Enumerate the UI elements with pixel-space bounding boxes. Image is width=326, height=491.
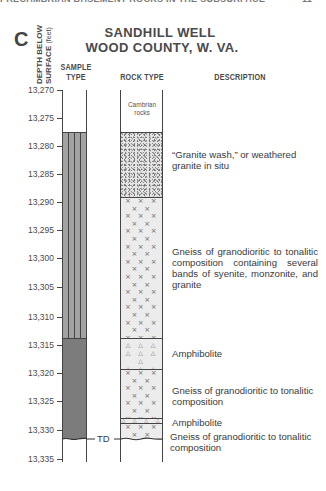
- tick-label: 13,285: [4, 169, 54, 179]
- cambrian-label-line1: Cambrian: [121, 101, 163, 109]
- sample-column-left-edge: [62, 90, 63, 462]
- description-gneiss-with-bands: Gneiss of granodioritic to tonalitic com…: [172, 246, 318, 290]
- description-granite-wash: “Granite wash,” or weathered granite in …: [172, 149, 318, 171]
- panel-letter: C: [14, 28, 28, 51]
- gneiss-pattern-row: × × × × ×: [121, 213, 163, 228]
- figure-title-line2: WOOD COUNTY, W. VA.: [62, 40, 262, 55]
- tick-label: 13,325: [4, 396, 54, 406]
- rock-amphibolite-interval-1: △ △ △ △ △ △ △ △ △ △: [121, 339, 163, 369]
- tick-label: 13,295: [4, 225, 54, 235]
- tick-label: 13,320: [4, 368, 54, 378]
- y-axis-title: DEPTH BELOW SURFACE (feet): [35, 25, 53, 84]
- running-title: PRECAMBRIAN BASEMENT ROCKS IN THE SUBSUR…: [0, 0, 265, 4]
- rock-boundary: [121, 418, 163, 419]
- sample-type-heading-line2: TYPE: [59, 72, 93, 82]
- gneiss-pattern-row: × × × × ×: [121, 370, 163, 385]
- gneiss-pattern-row: × × × × ×: [121, 228, 163, 243]
- sample-stripe-line: [74, 132, 75, 338]
- rock-boundary: [121, 197, 163, 198]
- tick-label: 13,310: [4, 312, 54, 322]
- column-heading-rock-type: ROCK TYPE: [117, 72, 168, 82]
- amphibolite-pattern-row: △ △ △: [121, 341, 163, 349]
- sample-stripe-line: [68, 132, 69, 338]
- rock-gneiss-interval-1: × × × × × × × × × × × × × × × × × × × × …: [121, 197, 163, 338]
- sample-column-right-edge: [86, 90, 87, 462]
- gneiss-pattern-row: × × × × ×: [121, 244, 163, 259]
- figure-title-line1: SANDHILL WELL: [70, 25, 250, 40]
- cambrian-rocks-label: Cambrian rocks: [121, 101, 163, 117]
- gneiss-pattern-row: × × × × ×: [121, 259, 163, 274]
- running-header: PRECAMBRIAN BASEMENT ROCKS IN THE SUBSUR…: [0, 0, 326, 4]
- tick-label: 13,315: [4, 340, 54, 350]
- page-number: 11: [302, 0, 312, 4]
- gneiss-pattern-row: × × × × ×: [121, 385, 163, 400]
- sample-light-gray-interval: [62, 132, 87, 338]
- gneiss-pattern-row: × × × × ×: [121, 289, 163, 304]
- column-heading-description: DESCRIPTION: [210, 72, 270, 82]
- gneiss-pattern-row: × × × × ×: [121, 400, 163, 415]
- tick-label: 13,280: [4, 141, 54, 151]
- rock-boundary: [121, 338, 163, 339]
- column-heading-sample-type: SAMPLE TYPE: [59, 62, 93, 82]
- sample-type-heading-line1: SAMPLE: [59, 62, 93, 72]
- total-depth-label: TD: [97, 433, 110, 444]
- tick-label: 13,330: [4, 425, 54, 435]
- sample-boundary: [62, 338, 87, 339]
- total-depth-line: [60, 434, 166, 444]
- rock-gneiss-interval-2: × × × × × × × × × × × × × × × × × × × × …: [121, 369, 163, 418]
- description-gneiss-2: Gneiss of granodioritic to tonalitic com…: [172, 385, 318, 407]
- rock-column-left-edge: [120, 90, 121, 462]
- tick-label: 13,335: [4, 454, 54, 464]
- sample-dark-gray-interval: [62, 338, 87, 439]
- tick-label: 13,300: [4, 253, 54, 263]
- rock-column-right-edge: [162, 90, 163, 462]
- tick-label: 13,270: [4, 85, 54, 95]
- y-axis-unit: (feet): [45, 27, 52, 43]
- amphibolite-pattern-row: △ △ △ △: [121, 349, 163, 365]
- gneiss-pattern-row: × × × × ×: [121, 274, 163, 289]
- y-axis-title-line1: DEPTH BELOW: [35, 25, 44, 84]
- gneiss-pattern-row: × × × × ×: [121, 198, 163, 213]
- rock-granite-wash: [121, 132, 163, 197]
- cambrian-label-line2: rocks: [121, 109, 163, 117]
- description-gneiss-3: Gneiss of granodioritic to tonalitic com…: [170, 431, 320, 453]
- tick-label: 13,290: [4, 197, 54, 207]
- gneiss-pattern-row: × × × × ×: [121, 304, 163, 319]
- sample-boundary: [62, 132, 87, 133]
- tick-label: 13,275: [4, 113, 54, 123]
- description-amphibolite-1: Amphibolite: [172, 348, 322, 359]
- gneiss-pattern-row: × × × × ×: [121, 320, 163, 335]
- rock-boundary: [121, 423, 163, 424]
- rock-boundary: [121, 369, 163, 370]
- y-axis-title-line2: SURFACE: [44, 46, 53, 84]
- tick-label: 13,305: [4, 282, 54, 292]
- description-amphibolite-2: Amphibolite: [172, 417, 322, 428]
- sample-stripe-line: [80, 132, 81, 338]
- rock-boundary: [121, 132, 163, 133]
